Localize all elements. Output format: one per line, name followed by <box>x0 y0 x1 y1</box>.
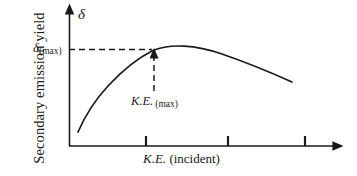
yield-curve <box>78 46 292 132</box>
delta-max-tick-label: δ(max) <box>33 41 62 56</box>
delta-max-subscript: (max) <box>39 46 62 56</box>
ke-max-annotation-main: K.E. <box>131 94 153 108</box>
ke-max-annotation-subscript: (max) <box>155 99 178 109</box>
y-axis-title: Secondary emission yield <box>26 0 52 176</box>
x-axis-title: K.E. (incident) <box>143 152 220 165</box>
secondary-emission-yield-figure: Secondary emission yield δ δ(max) K.E.(m… <box>0 0 357 176</box>
x-axis-title-main: K.E. <box>143 151 166 166</box>
x-axis-ticks <box>146 136 305 146</box>
plot-canvas <box>0 0 357 176</box>
y-axis-symbol-delta: δ <box>78 7 85 22</box>
ke-max-annotation: K.E.(max) <box>131 95 178 109</box>
x-axis-title-rest: (incident) <box>166 151 220 166</box>
